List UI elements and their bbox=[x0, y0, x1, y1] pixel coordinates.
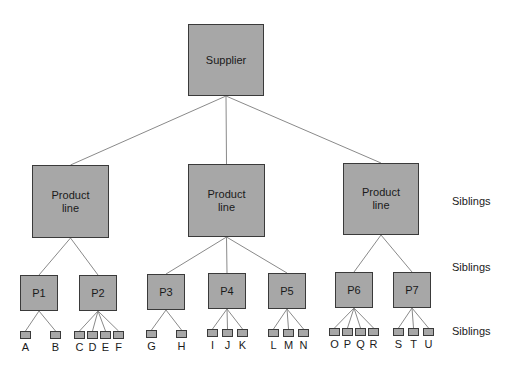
product-label: P4 bbox=[220, 285, 233, 298]
connector-line bbox=[213, 309, 228, 329]
item-node bbox=[393, 328, 404, 336]
connector-line bbox=[399, 308, 413, 328]
connector-line bbox=[227, 309, 243, 329]
item-node bbox=[298, 329, 309, 337]
product-label: P7 bbox=[405, 284, 418, 297]
item-label: B bbox=[48, 341, 64, 353]
item-label: F bbox=[111, 341, 127, 353]
connector-line bbox=[274, 309, 288, 329]
item-node bbox=[113, 331, 124, 339]
item-label: N bbox=[296, 339, 312, 351]
connector-line bbox=[287, 309, 304, 329]
connector-line bbox=[71, 238, 99, 275]
product-line-node: Product line bbox=[188, 164, 265, 237]
product-line-node: Product line bbox=[32, 165, 109, 238]
product-node: P4 bbox=[208, 273, 246, 309]
item-label: K bbox=[235, 339, 251, 351]
item-node bbox=[222, 329, 233, 337]
item-label: L bbox=[266, 339, 282, 351]
item-node bbox=[268, 329, 279, 337]
connector-line bbox=[381, 235, 412, 272]
connector-line bbox=[166, 237, 227, 274]
item-node bbox=[423, 328, 434, 336]
item-label: H bbox=[174, 340, 190, 352]
connector-line bbox=[39, 311, 56, 331]
siblings-label: Siblings bbox=[452, 325, 491, 338]
item-label: S bbox=[391, 338, 407, 350]
item-node bbox=[237, 329, 248, 337]
item-node bbox=[329, 328, 340, 336]
supplier-label: Supplier bbox=[206, 54, 246, 67]
connector-line bbox=[226, 96, 227, 164]
item-node bbox=[408, 328, 419, 336]
product-node: P5 bbox=[268, 273, 306, 309]
product-label: P5 bbox=[280, 285, 293, 298]
product-node: P3 bbox=[147, 274, 185, 310]
item-node bbox=[176, 330, 187, 338]
product-line-label: Product line bbox=[362, 186, 400, 212]
siblings-label: Siblings bbox=[452, 261, 491, 274]
supplier-node: Supplier bbox=[188, 24, 264, 96]
connector-line bbox=[71, 96, 227, 165]
connector-line bbox=[227, 237, 228, 273]
item-node bbox=[74, 331, 85, 339]
connector-line bbox=[227, 237, 288, 273]
connector-line bbox=[39, 238, 71, 275]
item-label: J bbox=[220, 339, 236, 351]
connector-line bbox=[227, 309, 228, 329]
connector-line bbox=[166, 310, 182, 330]
item-label: M bbox=[281, 339, 297, 351]
connector-line bbox=[26, 311, 40, 331]
product-label: P3 bbox=[159, 286, 172, 299]
product-line-label: Product line bbox=[208, 188, 246, 214]
item-node bbox=[283, 329, 294, 337]
item-node bbox=[146, 330, 157, 338]
siblings-label: Siblings bbox=[452, 195, 491, 208]
item-node bbox=[50, 331, 61, 339]
item-node bbox=[355, 328, 366, 336]
connector-line bbox=[412, 308, 414, 328]
product-line-node: Product line bbox=[343, 163, 419, 235]
product-line-label: Product line bbox=[52, 189, 90, 215]
connector-line bbox=[354, 235, 381, 272]
item-node bbox=[87, 331, 98, 339]
item-node bbox=[368, 328, 379, 336]
item-label: I bbox=[205, 339, 221, 351]
connector-line bbox=[152, 310, 167, 330]
connector-line bbox=[287, 309, 289, 329]
item-label: R bbox=[366, 338, 382, 350]
item-node bbox=[100, 331, 111, 339]
product-label: P6 bbox=[347, 284, 360, 297]
item-node bbox=[20, 331, 31, 339]
item-label: T bbox=[406, 338, 422, 350]
item-node bbox=[207, 329, 218, 337]
item-label: G bbox=[144, 340, 160, 352]
item-label: U bbox=[421, 338, 437, 350]
product-node: P6 bbox=[335, 272, 373, 308]
connector-line bbox=[226, 96, 381, 163]
connector-line bbox=[98, 311, 119, 331]
product-node: P2 bbox=[79, 275, 117, 311]
product-label: P1 bbox=[32, 287, 45, 300]
product-node: P1 bbox=[20, 275, 58, 311]
item-label: A bbox=[18, 341, 34, 353]
product-node: P7 bbox=[393, 272, 431, 308]
product-label: P2 bbox=[91, 287, 104, 300]
item-node bbox=[342, 328, 353, 336]
connector-line bbox=[412, 308, 429, 328]
